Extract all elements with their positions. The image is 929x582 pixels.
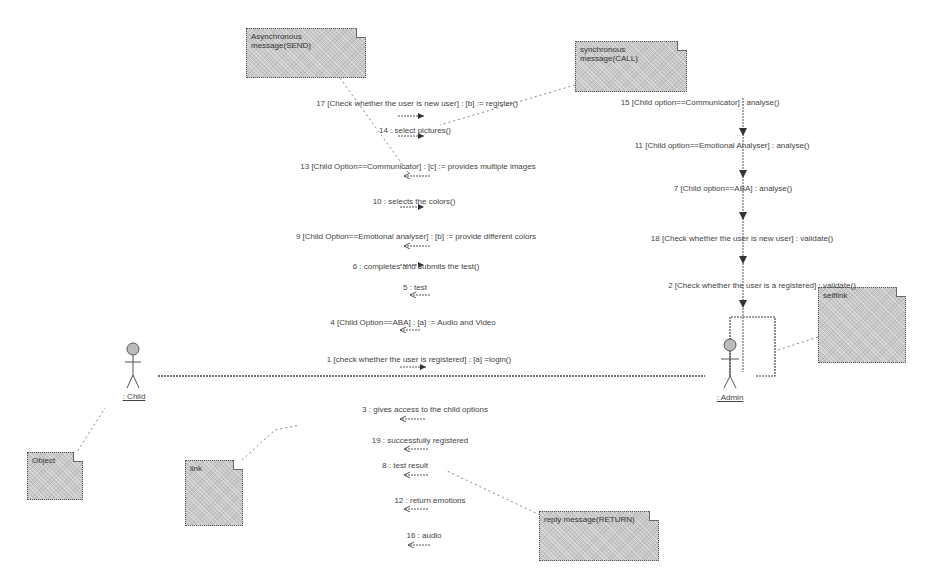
message-13[interactable]: 13 [Child Option==Communicator] : [c] :=… — [300, 162, 535, 171]
message-3[interactable]: 3 : gives access to the child options — [362, 405, 488, 414]
note-object[interactable]: Object — [27, 452, 83, 500]
note-text: link — [190, 464, 202, 473]
message-7[interactable]: 7 [Child option==ABA] : analyse() — [674, 184, 792, 193]
note-text: Asynchronous message(SEND) — [251, 32, 311, 50]
message-16[interactable]: 16 : audio — [406, 531, 441, 540]
message-4[interactable]: 4 [Child Option==ABA] : [a] := Audio and… — [330, 318, 496, 327]
message-17[interactable]: 17 [Check whether the user is new user] … — [316, 99, 518, 108]
message-15[interactable]: 15 [Child option==Communicator] : analys… — [621, 98, 780, 107]
message-14[interactable]: 14 : select pictures() — [379, 126, 451, 135]
message-19[interactable]: 19 : successfully registered — [372, 436, 469, 445]
message-1[interactable]: 1 [check whether the user is registered]… — [327, 355, 511, 364]
note-sync-message[interactable]: synchronous message(CALL) — [575, 41, 687, 92]
note-text: synchronous message(CALL) — [580, 45, 638, 63]
message-6[interactable]: 6 : completes and submits the test() — [353, 262, 480, 271]
child-actor-label: : Child — [123, 392, 146, 401]
communication-diagram: : Child : Admin Asynchronous message(SEN… — [0, 0, 929, 582]
admin-actor-label: : Admin — [717, 393, 744, 402]
note-link[interactable]: link — [185, 460, 243, 526]
message-9[interactable]: 9 [Child Option==Emotional analyser] : [… — [296, 232, 536, 241]
child-actor-icon[interactable] — [125, 343, 141, 388]
message-11[interactable]: 11 [Child option==Emotional Analyser] : … — [635, 141, 810, 150]
note-text: reply message(RETURN) — [544, 515, 635, 524]
message-18[interactable]: 18 [Check whether the user is new user] … — [651, 234, 833, 243]
self-link[interactable] — [730, 317, 775, 376]
message-2[interactable]: 2 [Check whether the user is a registere… — [668, 281, 856, 290]
note-reply-message[interactable]: reply message(RETURN) — [539, 511, 659, 561]
note-text: selflink — [823, 291, 847, 300]
message-12[interactable]: 12 : return emotions — [394, 496, 465, 505]
message-10[interactable]: 10 : selects the colors() — [373, 197, 456, 206]
message-5[interactable]: 5 : test — [403, 283, 427, 292]
note-async-message[interactable]: Asynchronous message(SEND) — [246, 28, 366, 78]
diagram-connectors — [0, 0, 929, 582]
message-8[interactable]: 8 : test result — [382, 461, 428, 470]
note-selflink[interactable]: selflink — [818, 287, 906, 363]
note-text: Object — [32, 456, 55, 465]
admin-actor-icon[interactable] — [721, 339, 739, 388]
